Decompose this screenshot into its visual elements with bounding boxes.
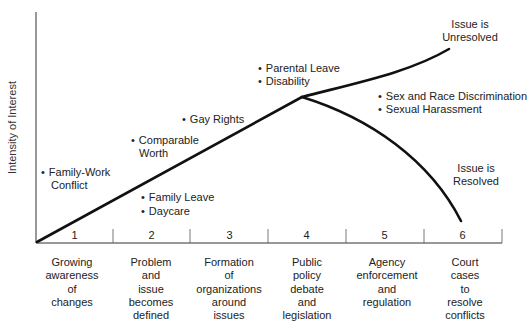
issue-comparable-worth: Comparable xyxy=(131,134,199,147)
issue-comparable-worth-line2: Worth xyxy=(139,147,168,160)
issue-daycare: Daycare xyxy=(141,205,190,218)
issue-gay-rights: Gay Rights xyxy=(182,113,244,126)
stage-description-5: Agency enforcement and regulation xyxy=(345,256,429,309)
outcome-resolved-label: Issue is Resolved xyxy=(436,162,516,188)
stage-number-3: 3 xyxy=(191,229,268,241)
issue-sexual-harassment: Sexual Harassment xyxy=(378,103,482,116)
issue-parental-leave: Parental Leave xyxy=(258,62,340,75)
stage-number-1: 1 xyxy=(36,229,113,241)
issue-family-work-conflict: Family-Work xyxy=(41,166,110,179)
stage-description-4: Public policy debate and legislation xyxy=(265,256,349,322)
stage-number-4: 4 xyxy=(268,229,345,241)
issue-family-work-conflict-line2: Conflict xyxy=(51,179,88,192)
stage-description-1: Growing awareness of changes xyxy=(30,256,114,309)
stage-number-5: 5 xyxy=(346,229,423,241)
outcome-unresolved-label: Issue is Unresolved xyxy=(430,18,510,44)
stage-description-2: Problem and issue becomes defined xyxy=(109,256,193,322)
y-axis-label: Intensity of Interest xyxy=(6,86,18,174)
stage-description-3: Formation of organizations around issues xyxy=(187,256,271,322)
issue-sex-race-discrimination: Sex and Race Discrimination xyxy=(378,90,527,103)
issue-family-leave: Family Leave xyxy=(141,191,214,204)
stage-number-2: 2 xyxy=(113,229,190,241)
issue-disability: Disability xyxy=(258,75,310,88)
stage-number-6: 6 xyxy=(424,229,501,241)
stage-description-6: Court cases to resolve conflicts xyxy=(423,256,507,322)
